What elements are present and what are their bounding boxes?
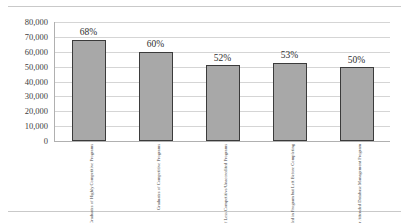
y-axis-tick-label: 70,000 [25, 33, 48, 42]
bar-series: 68%60%52%53%50% [55, 22, 390, 141]
y-axis-tick-label: 10,000 [25, 122, 48, 131]
bar-slot: 50% [323, 22, 390, 141]
category-label-line: in Program but Left [290, 180, 295, 216]
figure-top-rule [8, 6, 401, 7]
bar-slot: 52% [189, 22, 256, 141]
x-axis-line [54, 141, 390, 142]
bar-data-label: 53% [281, 51, 298, 61]
bar[interactable] [340, 67, 374, 141]
bar-slot: 68% [55, 22, 122, 141]
category-label-slot: Non-Graduates Enrolledin Program but Lef… [256, 144, 323, 206]
y-axis-tick-label: 0 [44, 137, 48, 146]
category-label-line: Graduates of Highly [89, 186, 94, 223]
category-label-slot: Graduates of HighlyCompetitive Programs [55, 144, 122, 206]
category-label-line: Competitive Programs [89, 144, 94, 185]
y-axis-tick-label: 40,000 [25, 77, 48, 86]
bar-data-label: 50% [348, 56, 365, 66]
category-label: Graduates of HighlyCompetitive Programs [89, 144, 94, 223]
bar-chart-figure: 80,00070,00060,00050,00040,00030,00020,0… [0, 0, 409, 223]
category-label-line: Competitive/Unaccredited [223, 163, 228, 211]
y-axis-tick-label: 60,000 [25, 48, 48, 57]
y-axis-tick-labels: 80,00070,00060,00050,00040,00030,00020,0… [0, 22, 48, 142]
bar[interactable] [72, 40, 106, 141]
y-axis-tick-label: 20,000 [25, 107, 48, 116]
category-label-line: Non-Graduates Enrolled [290, 218, 295, 223]
bar[interactable] [273, 63, 307, 141]
category-label: Graduates of CompetitivePrograms [156, 144, 161, 210]
category-label-slot: Non-Graduates that NeverAttended Databas… [323, 144, 390, 206]
category-label-line: Attended Database [357, 186, 362, 221]
bar-slot: 53% [256, 22, 323, 141]
category-label-line: Non-Graduates that Never [357, 222, 362, 223]
category-label-line: Management Program [357, 144, 362, 185]
category-label-slot: Graduates of CompetitivePrograms [122, 144, 189, 206]
category-label-line: Programs [156, 144, 161, 162]
category-label-line: Programs [223, 144, 228, 162]
category-label-slot: Graduates of LessCompetitive/Unaccredite… [189, 144, 256, 206]
category-label: Non-Graduates Enrolledin Program but Lef… [290, 144, 295, 223]
category-label-line: Graduates of Competitive [156, 163, 161, 210]
x-axis-category-labels: Graduates of HighlyCompetitive ProgramsG… [55, 144, 390, 206]
bar-data-label: 60% [147, 40, 164, 50]
y-axis-tick-label: 50,000 [25, 62, 48, 71]
figure-bottom-rule [8, 211, 401, 212]
bar-data-label: 52% [214, 54, 231, 64]
category-label: Non-Graduates that NeverAttended Databas… [357, 144, 362, 223]
bar-data-label: 68% [80, 28, 97, 38]
bar[interactable] [139, 52, 173, 141]
category-label: Graduates of LessCompetitive/Unaccredite… [223, 144, 228, 223]
y-axis-tick-label: 30,000 [25, 92, 48, 101]
bar-slot: 60% [122, 22, 189, 141]
category-label-line: Graduates of Less [223, 212, 228, 223]
category-label-line: Before Completing [290, 144, 295, 179]
bar[interactable] [206, 65, 240, 141]
y-axis-tick-label: 80,000 [25, 18, 48, 27]
